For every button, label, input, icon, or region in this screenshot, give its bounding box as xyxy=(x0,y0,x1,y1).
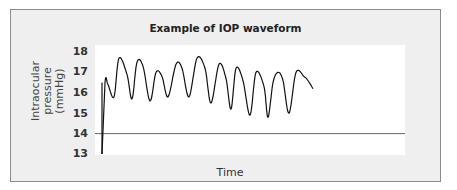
chart-canvas xyxy=(0,0,457,190)
iop-waveform-line xyxy=(102,57,313,154)
